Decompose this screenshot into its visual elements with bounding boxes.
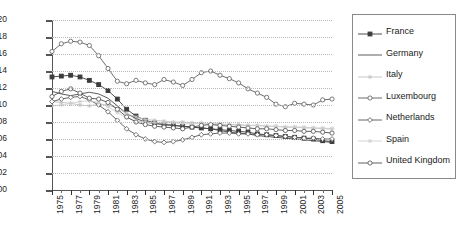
y-axis-tick-label: 0.14 — [0, 66, 7, 75]
y-axis-tick-label: 0.04 — [0, 151, 7, 160]
legend-marker-icon — [357, 90, 383, 102]
x-axis-tick — [80, 190, 81, 193]
gridline-horizontal — [52, 139, 332, 140]
x-axis-tick-label: 1997 — [261, 195, 270, 214]
x-axis-tick — [285, 190, 286, 193]
x-axis-tick — [295, 190, 296, 195]
x-axis-tick — [145, 190, 146, 195]
legend-label: France — [383, 27, 414, 36]
chart-screenshot: 0.000.020.040.060.080.100.120.140.160.18… — [0, 0, 460, 245]
legend-marker-icon — [357, 133, 383, 145]
legend-marker-icon — [357, 47, 383, 59]
y-axis-tick-label: 0.02 — [0, 168, 7, 177]
legend-label: United Kingdom — [383, 156, 450, 165]
y-axis-tick-label: 0.12 — [0, 83, 7, 92]
x-axis-tick — [61, 190, 62, 193]
legend-label: Luxembourg — [383, 92, 436, 101]
y-axis-tick-label: 0.06 — [0, 134, 7, 143]
y-axis-tick — [46, 122, 52, 124]
y-axis-tick-label: 0.08 — [0, 117, 7, 126]
legend-label: Italy — [383, 70, 403, 79]
gridline-horizontal — [52, 105, 332, 106]
x-axis-tick-label: 1993 — [224, 195, 233, 214]
y-axis-tick — [46, 139, 52, 141]
x-axis-tick — [192, 190, 193, 193]
x-axis-tick — [257, 190, 258, 195]
gridline-horizontal — [52, 156, 332, 157]
gridline-horizontal — [52, 71, 332, 72]
x-axis-tick — [117, 190, 118, 193]
x-axis-tick — [332, 190, 333, 195]
y-axis-tick — [46, 105, 52, 107]
legend-marker-icon — [357, 69, 383, 81]
gridline-horizontal — [52, 54, 332, 55]
legend-item-united-kingdom[interactable]: United Kingdom — [357, 150, 451, 172]
gridline-horizontal — [52, 37, 332, 38]
gridline-horizontal — [52, 122, 332, 123]
x-axis-tick-label: 1995 — [243, 195, 252, 214]
x-axis-tick — [220, 190, 221, 195]
x-axis-tick-label: 2005 — [336, 195, 345, 214]
series-united-kingdom — [50, 87, 334, 135]
gridline-horizontal — [52, 20, 332, 21]
legend-label: Spain — [383, 135, 409, 144]
x-axis-tick — [267, 190, 268, 193]
x-axis-tick — [99, 190, 100, 193]
x-axis-tick — [183, 190, 184, 195]
legend-item-netherlands[interactable]: Netherlands — [357, 107, 451, 129]
x-axis-tick — [304, 190, 305, 193]
x-axis-tick — [127, 190, 128, 195]
x-axis-tick-label: 1991 — [205, 195, 214, 214]
x-axis-tick-label: 2001 — [299, 195, 308, 214]
legend-item-spain[interactable]: Spain — [357, 129, 451, 151]
x-axis-tick — [164, 190, 165, 195]
x-axis-tick — [229, 190, 230, 193]
legend-item-luxembourg[interactable]: Luxembourg — [357, 86, 451, 108]
x-axis-tick — [89, 190, 90, 195]
legend-item-france[interactable]: France — [357, 21, 451, 43]
x-axis-tick-label: 1985 — [149, 195, 158, 214]
legend-label: Germany — [383, 49, 423, 58]
x-axis-tick — [276, 190, 277, 195]
x-axis-tick — [248, 190, 249, 193]
x-axis-tick-label: 1981 — [112, 195, 121, 214]
x-axis-tick-label: 1987 — [168, 195, 177, 214]
y-axis-tick — [46, 37, 52, 39]
y-axis-tick-label: 0.20 — [0, 15, 7, 24]
x-axis-tick — [239, 190, 240, 195]
legend-items: FranceGermanyItalyLuxembourgNetherlandsS… — [357, 21, 451, 172]
x-axis-tick-label: 1979 — [93, 195, 102, 214]
x-axis-tick — [201, 190, 202, 195]
y-axis-tick — [46, 173, 52, 175]
legend-item-italy[interactable]: Italy — [357, 64, 451, 86]
x-axis-tick — [52, 190, 53, 195]
y-axis-tick-label: 0.18 — [0, 32, 7, 41]
y-axis-tick — [46, 88, 52, 90]
chart-legend: FranceGermanyItalyLuxembourgNetherlandsS… — [352, 14, 456, 179]
legend-marker-icon — [357, 112, 383, 124]
legend-item-germany[interactable]: Germany — [357, 43, 451, 65]
x-axis-tick — [173, 190, 174, 193]
legend-label: Netherlands — [383, 113, 435, 122]
chart-plot-region: 0.000.020.040.060.080.100.120.140.160.18… — [0, 0, 345, 245]
x-axis-tick — [323, 190, 324, 193]
x-axis-tick-label: 1989 — [187, 195, 196, 214]
legend-marker-icon — [357, 155, 383, 167]
x-axis-tick-label: 1999 — [280, 195, 289, 214]
x-axis-tick-label: 1975 — [56, 195, 65, 214]
legend-marker-icon — [357, 26, 383, 38]
x-axis-tick — [108, 190, 109, 195]
gridline-horizontal — [52, 88, 332, 89]
x-axis-tick — [211, 190, 212, 193]
x-axis-tick — [155, 190, 156, 193]
y-axis-tick — [46, 71, 52, 73]
x-axis-tick-label: 2003 — [317, 195, 326, 214]
series-france — [50, 73, 334, 143]
y-axis-tick — [46, 20, 52, 22]
x-axis-tick-label: 1983 — [131, 195, 140, 214]
x-axis-tick — [313, 190, 314, 195]
y-axis-tick-label: 0.16 — [0, 49, 7, 58]
x-axis-tick — [136, 190, 137, 193]
y-axis-tick — [46, 156, 52, 158]
plot-canvas — [52, 20, 332, 190]
